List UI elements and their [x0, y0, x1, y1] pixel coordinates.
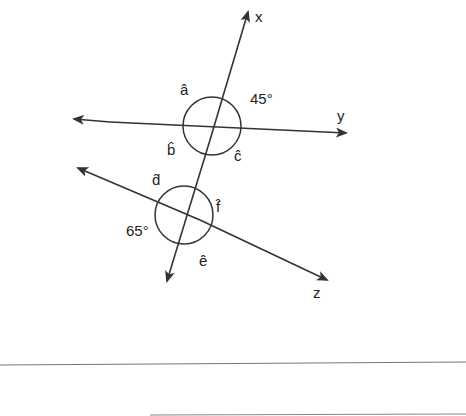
angle-d-label: d̂	[152, 171, 160, 188]
angle-b-label: b̂	[167, 141, 175, 158]
angle-65-label: 65°	[126, 222, 149, 239]
label-z: z	[313, 284, 321, 301]
transversal-diagram: x y z â 45° b̂ ĉ d̂ f̂ 65° ê	[0, 0, 466, 416]
label-x: x	[255, 8, 263, 25]
angle-e-label: ê	[199, 252, 207, 269]
angle-f-label: f̂	[215, 198, 221, 215]
line-y	[74, 119, 346, 133]
lower-angle-circle	[155, 186, 213, 244]
divider-line	[0, 362, 466, 365]
angle-45-label: 45°	[250, 90, 273, 107]
angle-a-label: â	[180, 81, 189, 98]
angle-c-label: ĉ	[234, 147, 242, 164]
label-y: y	[337, 107, 345, 124]
divider-line-lower	[150, 414, 466, 415]
